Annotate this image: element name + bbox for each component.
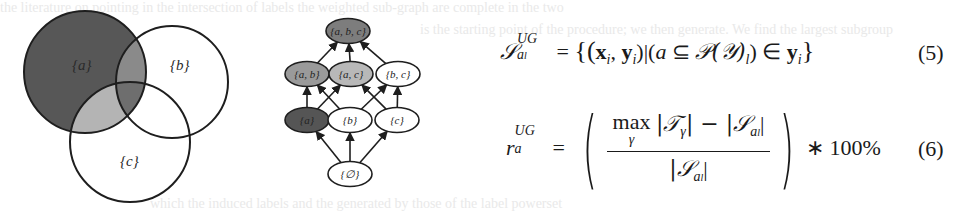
lattice-node-abc: {a, b, c} bbox=[326, 19, 370, 44]
lattice-edge-empty-to-c bbox=[360, 131, 387, 163]
lattice-node-label: {c} bbox=[390, 114, 404, 126]
eq6-fraction: maxγ |𝒯γ| − |𝒮al| |𝒮al| bbox=[607, 111, 771, 185]
equation-6: rUGa = ( maxγ |𝒯γ| − |𝒮al| |𝒮al| ) ∗ 100… bbox=[506, 98, 881, 198]
lattice-node-label: {a} bbox=[300, 114, 315, 126]
venn-label-a: {a} bbox=[72, 57, 92, 73]
lattice-edge-b-to-bc bbox=[361, 85, 387, 109]
lattice-edges bbox=[307, 41, 398, 162]
eq6-lhs: r bbox=[506, 135, 515, 161]
equation-5: 𝒮UGal = {(xi, yi)|(a ⊆ 𝒫(𝒴)l) ∈ yi} bbox=[500, 36, 814, 68]
lattice-node-b: {b} bbox=[328, 108, 372, 133]
equation-5-number: (5) bbox=[918, 40, 944, 66]
eq5-in: ) ∈ bbox=[749, 39, 786, 64]
eq6-den-S: |𝒮 bbox=[669, 156, 693, 181]
eq6-times-100-percent: ∗ 100% bbox=[806, 135, 881, 161]
eq5-lhs-symbol: 𝒮 bbox=[500, 39, 517, 64]
lattice-edge-ac-to-abc bbox=[349, 43, 350, 61]
lattice-node-ellipse bbox=[328, 108, 372, 133]
eq6-denominator: |𝒮al| bbox=[607, 151, 771, 185]
eq6-paren-close: ) bbox=[780, 105, 795, 191]
eq5-open-brace: {( bbox=[574, 36, 595, 65]
lattice-node-ab: {a, b} bbox=[285, 62, 329, 87]
lattice-node-bc: {b, c} bbox=[376, 62, 420, 87]
lattice-node-label: {a, b} bbox=[294, 68, 320, 80]
lattice-node-ellipse bbox=[328, 162, 372, 187]
venn-label-c: {c} bbox=[120, 153, 139, 169]
lattice-edge-bc-to-abc bbox=[360, 41, 386, 63]
eq6-paren-open: ( bbox=[582, 105, 597, 191]
lattice-node-label: {∅} bbox=[341, 168, 360, 180]
venn-diagram: {a} {b} {c} bbox=[0, 0, 260, 216]
eq6-superscript: UG bbox=[515, 123, 535, 139]
venn-label-b: {b} bbox=[170, 57, 190, 73]
lattice-node-empty: {∅} bbox=[328, 162, 372, 187]
equation-6-number: (6) bbox=[918, 136, 944, 162]
eq6-subscript: a bbox=[515, 141, 522, 157]
lattice-node-ac: {a, c} bbox=[329, 62, 373, 87]
lattice-node-ellipse bbox=[375, 108, 419, 133]
lattice-node-ellipse bbox=[326, 19, 370, 44]
eq5-y2: y bbox=[787, 39, 798, 64]
lattice-edge-empty-to-a bbox=[316, 131, 341, 162]
lattice-node-label: {b, c} bbox=[386, 68, 411, 80]
lattice-nodes: {a, b, c}{a, b}{a, c}{b, c}{a}{b}{c}{∅} bbox=[285, 19, 420, 187]
lattice-edge-ab-to-abc bbox=[317, 42, 337, 63]
eq6-equals: = bbox=[553, 135, 565, 161]
eq6-den-end: | bbox=[703, 156, 707, 181]
eq5-mid: )|( bbox=[636, 39, 655, 64]
eq5-subseteq: ⊆ bbox=[666, 39, 695, 64]
lattice-node-ellipse bbox=[376, 62, 420, 87]
eq5-y: y bbox=[621, 39, 632, 64]
eq6-num-end: | bbox=[760, 111, 764, 136]
bleed-through-text-3: which the induced labels and the generat… bbox=[150, 196, 971, 212]
eq6-numerator: maxγ |𝒯γ| − |𝒮al| bbox=[607, 111, 771, 151]
eq5-powerset: 𝒫 bbox=[695, 39, 711, 64]
lattice-node-ellipse bbox=[285, 62, 329, 87]
eq6-max: max bbox=[613, 109, 651, 134]
eq5-equals: = bbox=[557, 39, 569, 64]
lattice-node-a: {a} bbox=[285, 108, 329, 133]
lattice-edge-b-to-ab bbox=[317, 85, 339, 109]
eq5-label-space: (𝒴) bbox=[711, 39, 745, 64]
lattice-node-ellipse bbox=[285, 108, 329, 133]
lattice-node-label: {b} bbox=[343, 114, 358, 126]
lattice-node-ellipse bbox=[329, 62, 373, 87]
eq5-x: x bbox=[596, 39, 607, 64]
eq6-den-S-sub: a bbox=[694, 169, 701, 184]
eq5-subscript: a bbox=[517, 47, 524, 62]
lattice-edge-c-to-ac bbox=[362, 85, 386, 109]
eq5-a: a bbox=[655, 39, 666, 64]
eq6-num-mid: | − |𝒮 bbox=[686, 111, 750, 136]
lattice-edge-a-to-ac bbox=[318, 85, 341, 109]
eq5-subsubscript: l bbox=[524, 50, 527, 61]
eq6-T: |𝒯 bbox=[656, 111, 680, 136]
eq5-superscript: UG bbox=[517, 31, 537, 47]
lattice-node-label: {a, b, c} bbox=[330, 25, 366, 37]
lattice-node-label: {a, c} bbox=[339, 68, 364, 80]
eq5-close-brace: } bbox=[802, 36, 814, 65]
eq5-comma: , bbox=[610, 39, 621, 64]
lattice-node-c: {c} bbox=[375, 108, 419, 133]
eq6-max-sub: γ bbox=[613, 133, 651, 147]
